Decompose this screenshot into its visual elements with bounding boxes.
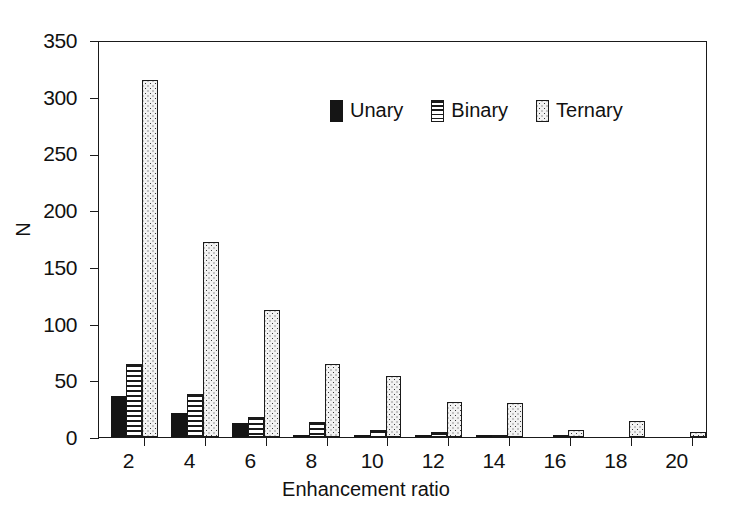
x-axis-tick (692, 437, 693, 446)
y-axis-tick (90, 325, 99, 326)
bar-ternary-8 (325, 364, 341, 437)
x-axis-tick (509, 437, 510, 446)
y-axis-tick (90, 381, 99, 382)
bar-binary-16 (553, 435, 569, 437)
y-axis-tick-label: 100 (17, 314, 77, 335)
bar-binary-8 (309, 422, 325, 437)
x-axis-tick-label: 16 (525, 450, 585, 471)
bar-unary-12 (415, 435, 431, 437)
y-axis-tick (90, 211, 99, 212)
bar-ternary-4 (203, 242, 219, 437)
y-axis-tick-label: 250 (17, 143, 77, 164)
x-axis-tick (266, 437, 267, 446)
legend-label-binary: Binary (451, 99, 508, 122)
bar-ternary-14 (507, 403, 523, 437)
x-axis-tick-label: 6 (220, 450, 280, 471)
bar-ternary-2 (142, 80, 158, 437)
bar-unary-4 (171, 413, 187, 437)
bar-binary-2 (126, 364, 142, 437)
dotted-swatch-icon (536, 100, 549, 122)
legend-item-unary: Unary (330, 99, 403, 122)
y-axis-tick (90, 438, 99, 439)
y-axis-tick-label: 150 (17, 257, 77, 278)
bar-ternary-10 (386, 376, 402, 437)
bar-unary-2 (111, 396, 127, 437)
x-axis-tick (144, 437, 145, 446)
bar-binary-10 (370, 430, 386, 437)
legend-item-binary: Binary (431, 99, 508, 122)
bar-ternary-16 (568, 430, 584, 437)
x-axis-tick (205, 437, 206, 446)
y-axis-tick (90, 155, 99, 156)
y-axis-tick (90, 98, 99, 99)
x-axis-tick (570, 437, 571, 446)
x-axis-tick (387, 437, 388, 446)
y-axis-tick (90, 268, 99, 269)
x-axis-tick-label: 10 (342, 450, 402, 471)
y-axis-tick-label: 350 (17, 30, 77, 51)
bar-ternary-6 (264, 310, 280, 437)
y-axis-tick (90, 41, 99, 42)
bar-binary-14 (492, 435, 508, 437)
x-axis-title: Enhancement ratio (0, 478, 732, 501)
x-axis-tick (631, 437, 632, 446)
x-axis-tick-label: 2 (98, 450, 158, 471)
bar-binary-4 (187, 394, 203, 437)
x-axis-tick (448, 437, 449, 446)
bar-binary-12 (431, 432, 447, 437)
y-axis-title: N (12, 222, 35, 236)
legend-item-ternary: Ternary (536, 99, 623, 122)
y-axis-tick-label: 50 (17, 370, 77, 391)
x-axis-tick-label: 12 (403, 450, 463, 471)
y-axis-tick-label: 200 (17, 200, 77, 221)
x-axis-tick-label: 18 (586, 450, 646, 471)
y-axis-tick-label: 300 (17, 87, 77, 108)
legend-label-unary: Unary (350, 99, 403, 122)
chart-legend: Unary Binary Ternary (330, 99, 623, 122)
bar-ternary-12 (447, 402, 463, 437)
x-axis-tick-label: 20 (647, 450, 707, 471)
bar-binary-6 (248, 417, 264, 437)
legend-label-ternary: Ternary (556, 99, 623, 122)
bar-unary-14 (476, 435, 492, 437)
x-axis-tick-label: 14 (464, 450, 524, 471)
bar-chart-figure: N Unary Binary Ternary Enhancement ratio… (0, 0, 732, 517)
y-axis-tick-label: 0 (17, 427, 77, 448)
x-axis-tick-label: 4 (159, 450, 219, 471)
bar-unary-10 (354, 435, 370, 437)
solid-black-swatch-icon (330, 100, 343, 122)
x-axis-tick-label: 8 (281, 450, 341, 471)
bar-unary-6 (232, 423, 248, 437)
x-axis-tick (327, 437, 328, 446)
bar-unary-8 (293, 435, 309, 437)
bar-ternary-18 (629, 421, 645, 437)
horizontal-lines-swatch-icon (431, 100, 444, 122)
